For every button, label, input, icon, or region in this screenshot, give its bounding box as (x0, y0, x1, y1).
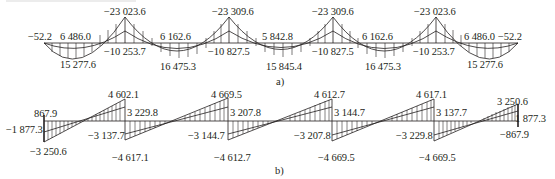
label-j4-top-inner: 3 137.7 (436, 107, 467, 118)
label-left-end-mid: −1 877.3 (6, 124, 43, 135)
label-end-right: −52.2 (498, 31, 522, 42)
label-span1-inner: 6 486.0 (60, 31, 91, 42)
label-j3-bottom-outer: −4 669.5 (318, 152, 355, 163)
label-support2-inner: −10 253.7 (104, 46, 146, 57)
label-span2-inner: 6 162.6 (160, 31, 191, 42)
label-support5-outer: −23 023.6 (414, 6, 456, 17)
diagram-canvas: −52.2 6 486.0 15 277.6 −23 023.6 −10 253… (0, 0, 555, 179)
label-support4-inner: −10 827.5 (312, 46, 354, 57)
label-j4-top-outer: 4 617.1 (416, 89, 447, 100)
label-span2-outer: 16 475.3 (160, 61, 196, 72)
label-support3-outer: −23 309.6 (212, 6, 254, 17)
header-strip (6, 0, 136, 2)
label-j3-top-inner: 3 144.7 (334, 107, 365, 118)
label-support5-inner: −10 253.7 (413, 46, 455, 57)
label-right-end-bottom: −867.9 (500, 129, 529, 140)
label-span4-inner: 6 162.6 (362, 31, 393, 42)
label-right-end-top: 3 250.6 (497, 96, 528, 107)
label-span3-inner: 5 842.8 (262, 31, 293, 42)
label-right-end-mid: 1 877.3 (515, 113, 546, 124)
label-support3-inner: −10 827.5 (208, 46, 250, 57)
label-left-end-top: 867.9 (34, 108, 57, 119)
label-span4-outer: 16 475.3 (365, 61, 401, 72)
label-j2-top-inner: 3 207.8 (230, 107, 261, 118)
label-left-end-bottom: −3 250.6 (30, 146, 67, 157)
label-span5-inner: 6 486.0 (464, 31, 495, 42)
label-support2-outer: −23 023.6 (104, 6, 146, 17)
label-j4-bottom-outer: −4 669.5 (419, 152, 456, 163)
label-j4-bottom-inner: −3 229.8 (396, 130, 433, 141)
label-j3-bottom-inner: −3 207.8 (294, 130, 331, 141)
label-j2-bottom-inner: −3 144.7 (188, 130, 225, 141)
label-j1-top-outer: 4 602.1 (108, 89, 139, 100)
diagram-graphics (0, 0, 555, 179)
label-span1-outer: 15 277.6 (60, 59, 96, 70)
label-j3-top-outer: 4 612.7 (314, 89, 345, 100)
label-end-left: −52.2 (28, 31, 52, 42)
label-span5-outer: 15 277.6 (467, 59, 503, 70)
label-j1-bottom-outer: −4 617.1 (112, 152, 149, 163)
caption-b: b) (275, 165, 284, 176)
label-span3-outer: 15 845.4 (266, 61, 302, 72)
label-support4-outer: −23 309.6 (312, 6, 354, 17)
label-j1-top-inner: 3 229.8 (127, 107, 158, 118)
label-j1-bottom-inner: −3 137.7 (88, 130, 125, 141)
label-j2-top-outer: 4 669.5 (211, 89, 242, 100)
label-j2-bottom-outer: −4 612.7 (214, 152, 251, 163)
caption-a: a) (276, 76, 284, 87)
